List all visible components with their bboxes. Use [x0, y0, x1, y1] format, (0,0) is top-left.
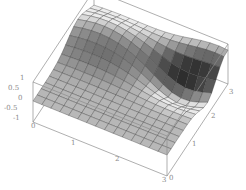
y-axis-tick-label: 0 — [169, 174, 173, 182]
y-axis-tick-label: 3 — [229, 88, 233, 96]
x-axis-tick-label: 0 — [31, 122, 35, 130]
x-axis-tick-label: 3 — [162, 176, 166, 184]
z-axis-tick-label: 0.5 — [8, 84, 19, 92]
z-axis-tick-label: -1 — [13, 114, 20, 122]
z-axis-tick-label: 0 — [18, 94, 22, 102]
x-axis-tick-label: 1 — [71, 139, 75, 147]
y-axis-tick-label: 2 — [211, 112, 215, 120]
x-axis-tick-label: 2 — [115, 155, 119, 163]
y-axis-tick-label: 1 — [192, 140, 196, 148]
surface-mesh — [33, 5, 228, 155]
z-axis-tick-label: -0.5 — [4, 104, 18, 112]
z-axis-tick-label: 1 — [20, 74, 24, 82]
surface-plot: 10.50-0.5-101230123 — [0, 0, 246, 190]
